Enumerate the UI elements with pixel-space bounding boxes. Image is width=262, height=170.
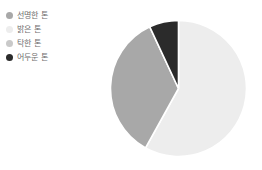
legend-item-vivid-tone[interactable]: 선명한 톤	[6, 9, 48, 21]
legend-item-label: 어두운 톤	[17, 53, 48, 62]
legend-swatch-icon	[6, 26, 13, 33]
legend-item-label: 탁한 톤	[17, 39, 41, 48]
legend-swatch-icon	[6, 12, 13, 19]
pie-plot-area	[110, 20, 247, 157]
legend-swatch-icon	[6, 40, 13, 47]
legend-item-dull-tone[interactable]: 탁한 톤	[6, 37, 48, 49]
legend-item-label: 밝은 톤	[17, 25, 41, 34]
pie-slice-group	[111, 21, 247, 157]
legend-item-label: 선명한 톤	[17, 11, 48, 20]
legend-swatch-icon	[6, 54, 13, 61]
pie-chart-figure: 선명한 톤 밝은 톤 탁한 톤 어두운 톤	[0, 0, 262, 170]
pie-svg	[110, 20, 247, 157]
legend-item-bright-tone[interactable]: 밝은 톤	[6, 23, 48, 35]
legend-item-dark-tone[interactable]: 어두운 톤	[6, 51, 48, 63]
chart-legend: 선명한 톤 밝은 톤 탁한 톤 어두운 톤	[6, 9, 48, 63]
